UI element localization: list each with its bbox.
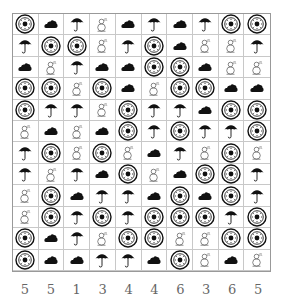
- grid-cell[interactable]: [64, 142, 90, 163]
- grid-cell[interactable]: [167, 100, 193, 121]
- grid-cell[interactable]: [90, 142, 116, 163]
- grid-cell[interactable]: [39, 57, 65, 78]
- grid-cell[interactable]: [142, 185, 168, 206]
- grid-cell[interactable]: [64, 14, 90, 35]
- grid-cell[interactable]: [90, 121, 116, 142]
- grid-cell[interactable]: [90, 57, 116, 78]
- grid-cell[interactable]: [167, 78, 193, 99]
- grid-cell[interactable]: [244, 185, 270, 206]
- grid-cell[interactable]: [244, 35, 270, 56]
- grid-cell[interactable]: [193, 14, 219, 35]
- grid-cell[interactable]: [142, 228, 168, 249]
- grid-cell[interactable]: [13, 78, 39, 99]
- grid-cell[interactable]: [219, 100, 245, 121]
- grid-cell[interactable]: [193, 100, 219, 121]
- grid-cell[interactable]: [90, 14, 116, 35]
- grid-cell[interactable]: [64, 250, 90, 271]
- grid-cell[interactable]: [142, 100, 168, 121]
- grid-cell[interactable]: [39, 228, 65, 249]
- grid-cell[interactable]: [90, 35, 116, 56]
- grid-cell[interactable]: [167, 121, 193, 142]
- grid-cell[interactable]: [142, 121, 168, 142]
- grid-cell[interactable]: [64, 185, 90, 206]
- grid-cell[interactable]: [219, 228, 245, 249]
- grid-cell[interactable]: [90, 185, 116, 206]
- grid-cell[interactable]: [142, 14, 168, 35]
- grid-cell[interactable]: [64, 57, 90, 78]
- grid-cell[interactable]: [219, 121, 245, 142]
- grid-cell[interactable]: [167, 14, 193, 35]
- grid-cell[interactable]: [39, 100, 65, 121]
- grid-cell[interactable]: [13, 164, 39, 185]
- grid-cell[interactable]: [167, 207, 193, 228]
- grid-cell[interactable]: [193, 228, 219, 249]
- grid-cell[interactable]: [116, 100, 142, 121]
- grid-cell[interactable]: [64, 164, 90, 185]
- grid-cell[interactable]: [39, 250, 65, 271]
- grid-cell[interactable]: [219, 78, 245, 99]
- grid-cell[interactable]: [244, 142, 270, 163]
- grid-cell[interactable]: [142, 207, 168, 228]
- grid-cell[interactable]: [90, 100, 116, 121]
- grid-cell[interactable]: [90, 228, 116, 249]
- grid-cell[interactable]: [193, 78, 219, 99]
- grid-cell[interactable]: [219, 35, 245, 56]
- grid-cell[interactable]: [167, 57, 193, 78]
- grid-cell[interactable]: [219, 207, 245, 228]
- grid-cell[interactable]: [244, 100, 270, 121]
- grid-cell[interactable]: [13, 185, 39, 206]
- grid-cell[interactable]: [244, 78, 270, 99]
- grid-cell[interactable]: [193, 35, 219, 56]
- grid-cell[interactable]: [219, 14, 245, 35]
- grid-cell[interactable]: [64, 121, 90, 142]
- grid-cell[interactable]: [167, 185, 193, 206]
- grid-cell[interactable]: [64, 100, 90, 121]
- grid-cell[interactable]: [116, 142, 142, 163]
- grid-cell[interactable]: [39, 78, 65, 99]
- grid-cell[interactable]: [193, 250, 219, 271]
- grid-cell[interactable]: [13, 228, 39, 249]
- grid-cell[interactable]: [193, 121, 219, 142]
- grid-cell[interactable]: [244, 228, 270, 249]
- grid-cell[interactable]: [244, 57, 270, 78]
- grid-cell[interactable]: [193, 142, 219, 163]
- grid-cell[interactable]: [64, 35, 90, 56]
- grid-cell[interactable]: [142, 57, 168, 78]
- grid-cell[interactable]: [39, 121, 65, 142]
- grid-cell[interactable]: [244, 250, 270, 271]
- grid-cell[interactable]: [90, 250, 116, 271]
- grid-cell[interactable]: [39, 164, 65, 185]
- grid-cell[interactable]: [142, 250, 168, 271]
- grid-cell[interactable]: [142, 164, 168, 185]
- grid-cell[interactable]: [219, 164, 245, 185]
- grid-cell[interactable]: [13, 207, 39, 228]
- grid-cell[interactable]: [13, 121, 39, 142]
- grid-cell[interactable]: [244, 121, 270, 142]
- grid-cell[interactable]: [116, 250, 142, 271]
- grid-cell[interactable]: [13, 142, 39, 163]
- grid-cell[interactable]: [244, 164, 270, 185]
- grid-cell[interactable]: [116, 14, 142, 35]
- grid-cell[interactable]: [116, 57, 142, 78]
- grid-cell[interactable]: [116, 207, 142, 228]
- grid-cell[interactable]: [116, 164, 142, 185]
- grid-cell[interactable]: [13, 57, 39, 78]
- grid-cell[interactable]: [39, 14, 65, 35]
- grid-cell[interactable]: [193, 164, 219, 185]
- grid-cell[interactable]: [193, 207, 219, 228]
- grid-cell[interactable]: [39, 185, 65, 206]
- grid-cell[interactable]: [64, 228, 90, 249]
- grid-cell[interactable]: [90, 78, 116, 99]
- grid-cell[interactable]: [167, 228, 193, 249]
- grid-cell[interactable]: [142, 142, 168, 163]
- grid-cell[interactable]: [142, 78, 168, 99]
- grid-cell[interactable]: [167, 142, 193, 163]
- grid-cell[interactable]: [90, 164, 116, 185]
- grid-cell[interactable]: [244, 207, 270, 228]
- grid-cell[interactable]: [244, 14, 270, 35]
- grid-cell[interactable]: [90, 207, 116, 228]
- grid-cell[interactable]: [219, 185, 245, 206]
- grid-cell[interactable]: [39, 35, 65, 56]
- grid-cell[interactable]: [39, 142, 65, 163]
- grid-cell[interactable]: [219, 57, 245, 78]
